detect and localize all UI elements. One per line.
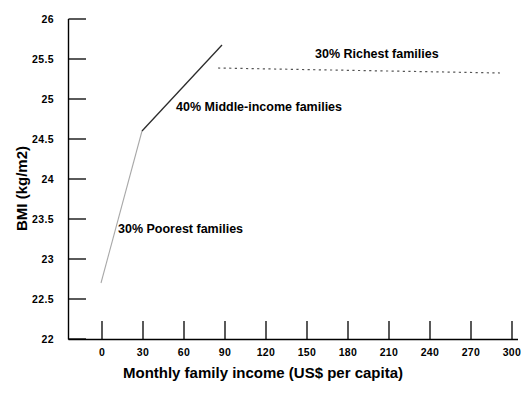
x-tick-label-300: 300	[503, 346, 522, 358]
x-tick-label-0: 0	[99, 346, 105, 358]
x-axis-title: Monthly family income (US$ per capita)	[0, 364, 526, 381]
x-axis-ticks	[102, 321, 512, 340]
y-tick-label-23: 23	[14, 253, 54, 265]
y-tick-label-25-5: 25.5	[14, 53, 54, 65]
chart-figure: 26 25.5 25 24.5 24 23.5 23 22.5 22 0 30 …	[0, 0, 526, 395]
x-tick-label-60: 60	[178, 346, 190, 358]
chart-plot-area	[0, 0, 526, 395]
series-line-middle	[142, 45, 222, 131]
x-tick-label-30: 30	[137, 346, 149, 358]
x-tick-label-240: 240	[421, 346, 440, 358]
annotation-poorest-families: 30% Poorest families	[118, 222, 243, 236]
annotation-richest-families: 30% Richest families	[315, 47, 439, 61]
x-tick-label-270: 270	[462, 346, 481, 358]
y-tick-label-22: 22	[14, 333, 54, 345]
x-tick-label-90: 90	[219, 346, 231, 358]
series-line-poorest	[101, 131, 142, 283]
y-tick-label-25: 25	[14, 93, 54, 105]
y-axis-ticks	[69, 19, 87, 339]
x-tick-label-210: 210	[380, 346, 399, 358]
y-axis-title: BMI (kg/m2)	[13, 124, 30, 254]
x-tick-label-180: 180	[339, 346, 358, 358]
x-tick-label-120: 120	[257, 346, 276, 358]
series-line-richest	[218, 68, 500, 73]
x-tick-label-150: 150	[298, 346, 317, 358]
annotation-middle-income-families: 40% Middle-income families	[176, 100, 342, 114]
y-tick-label-26: 26	[14, 13, 54, 25]
y-tick-label-22-5: 22.5	[14, 293, 54, 305]
